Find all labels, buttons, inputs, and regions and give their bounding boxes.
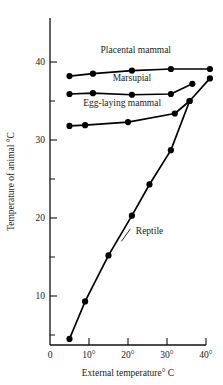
data-point-marker xyxy=(146,181,152,187)
chart-figure: 10203040 010°20°30°40° Placental mammalM… xyxy=(0,0,223,385)
data-point-marker xyxy=(66,123,72,129)
data-point-marker xyxy=(66,91,72,97)
x-tick-label: 30° xyxy=(160,350,174,360)
series-lines xyxy=(70,69,210,339)
data-point-marker xyxy=(207,66,213,72)
data-point-marker xyxy=(168,91,174,97)
series-label-reptile: Reptile xyxy=(136,226,163,236)
data-point-marker xyxy=(105,252,111,258)
series-line xyxy=(70,78,210,339)
y-tick-label: 10 xyxy=(36,291,46,301)
x-tick-label: 0 xyxy=(48,350,53,360)
y-tick-label: 30 xyxy=(36,135,46,145)
data-point-marker xyxy=(168,66,174,72)
series-label-egg-laying-mammal: Egg-laying mammal xyxy=(83,98,161,108)
data-point-marker xyxy=(82,298,88,304)
data-point-marker xyxy=(129,213,135,219)
series-label-marsupial: Marsupial xyxy=(113,73,152,83)
data-point-marker xyxy=(189,81,195,87)
x-axis-tick-labels: 010°20°30°40° xyxy=(48,350,213,360)
y-axis-tick-labels: 10203040 xyxy=(36,57,46,301)
data-point-marker xyxy=(172,110,178,116)
data-point-marker xyxy=(90,90,96,96)
y-tick-label: 40 xyxy=(36,57,46,67)
data-point-marker xyxy=(66,336,72,342)
data-point-marker xyxy=(90,71,96,77)
y-tick-label: 20 xyxy=(36,213,46,223)
line-chart: 10203040 010°20°30°40° Placental mammalM… xyxy=(0,0,223,385)
data-point-marker xyxy=(66,73,72,79)
data-point-marker xyxy=(207,75,213,81)
x-tick-label: 20° xyxy=(121,350,135,360)
series-label-placental-mammal: Placental mammal xyxy=(101,45,172,55)
y-axis-title: Temperature of animal °C xyxy=(6,132,16,231)
data-point-marker xyxy=(82,122,88,128)
data-point-marker xyxy=(125,119,131,125)
x-tick-label: 40° xyxy=(199,350,213,360)
x-tick-label: 10° xyxy=(82,350,96,360)
data-point-marker xyxy=(168,147,174,153)
data-point-marker xyxy=(187,98,193,104)
x-axis-ticks xyxy=(89,338,206,345)
x-axis-title: External temperature° C xyxy=(82,368,174,378)
